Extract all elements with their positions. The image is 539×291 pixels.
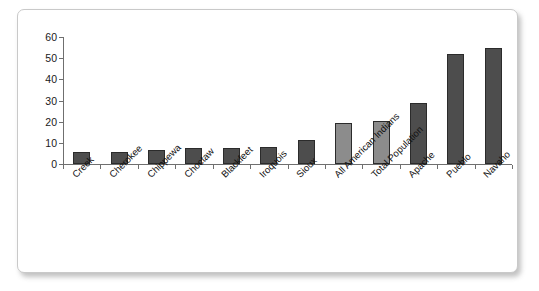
y-axis-tick-label: 40 <box>21 74 57 84</box>
y-axis-tick-label-text: 40 <box>27 74 57 84</box>
chart-frame: 0102030405060 CreekCherokeeChippewaChoct… <box>17 9 518 273</box>
screenshot-root: 0102030405060 CreekCherokeeChippewaChoct… <box>0 0 539 291</box>
x-axis-tick <box>512 165 513 169</box>
x-axis-tick <box>100 165 101 169</box>
y-axis-tick-label-text: 60 <box>27 32 57 42</box>
x-axis-tick <box>400 165 401 169</box>
y-axis-tick-label: 50 <box>21 53 57 63</box>
bar-navaho <box>485 48 502 164</box>
y-axis-tick-label-text: 10 <box>27 138 57 148</box>
bar-pueblo <box>447 54 464 164</box>
y-axis-tick-label-text: 0 <box>27 159 57 169</box>
x-axis-tick <box>475 165 476 169</box>
x-axis-tick <box>63 165 64 169</box>
y-axis-tick-label: 30 <box>21 96 57 106</box>
y-axis-tick-label: 20 <box>21 117 57 127</box>
x-axis-tick <box>437 165 438 169</box>
x-axis-tick <box>213 165 214 169</box>
y-axis-tick-label: 60 <box>21 32 57 42</box>
y-axis-tick-label: 10 <box>21 138 57 148</box>
x-axis-tick <box>325 165 326 169</box>
y-axis-tick-label: 0 <box>21 159 57 169</box>
bars-layer <box>63 37 512 164</box>
x-axis-tick <box>250 165 251 169</box>
x-axis-tick <box>175 165 176 169</box>
x-axis-tick <box>362 165 363 169</box>
y-axis-tick-label-text: 30 <box>27 96 57 106</box>
x-axis-tick <box>138 165 139 169</box>
x-axis-tick <box>288 165 289 169</box>
y-axis-tick-label-text: 50 <box>27 53 57 63</box>
bar-chart: 0102030405060 CreekCherokeeChippewaChoct… <box>18 10 519 274</box>
y-axis-tick-label-text: 20 <box>27 117 57 127</box>
